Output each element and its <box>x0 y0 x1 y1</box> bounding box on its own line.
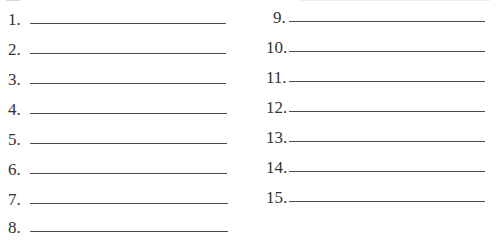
answer-row: 14. <box>250 158 496 182</box>
answer-row: 13. <box>250 128 496 152</box>
answer-row: 15. <box>250 188 496 212</box>
item-number: 7. <box>8 190 21 210</box>
item-number: 14. <box>266 158 287 178</box>
answer-blank-line[interactable] <box>289 111 485 112</box>
answer-blank-line[interactable] <box>30 53 226 54</box>
item-number: 11. <box>266 68 287 88</box>
answer-blank-line[interactable] <box>30 83 226 84</box>
item-number: 8. <box>8 218 21 238</box>
answer-row: 12. <box>250 98 496 122</box>
answer-row: 2. <box>0 38 240 62</box>
clipped-header-fragment <box>0 0 496 3</box>
answer-blank-line[interactable] <box>289 21 485 22</box>
answer-blank-line[interactable] <box>30 203 228 204</box>
answer-blank-line[interactable] <box>289 51 485 52</box>
answer-row: 9. <box>250 8 496 32</box>
item-number: 13. <box>266 128 287 148</box>
answer-blank-line[interactable] <box>289 141 485 142</box>
answer-row: 11. <box>250 68 496 92</box>
item-number: 2. <box>8 40 21 60</box>
clipped-text-fragment <box>6 0 20 1</box>
item-number: 3. <box>8 70 21 90</box>
answer-row: 4. <box>0 98 240 122</box>
answer-row: 5. <box>0 128 240 152</box>
answer-blank-line[interactable] <box>289 201 485 202</box>
answer-blank-line[interactable] <box>30 23 226 24</box>
answer-row: 10. <box>250 38 496 62</box>
answer-blank-line[interactable] <box>289 171 485 172</box>
item-number: 12. <box>266 98 287 118</box>
item-number: 6. <box>8 160 21 180</box>
answer-row: 8. <box>0 216 240 240</box>
answer-blank-line[interactable] <box>289 81 485 82</box>
answer-row: 7. <box>0 188 240 212</box>
item-number: 10. <box>266 38 287 58</box>
item-number: 4. <box>8 100 21 120</box>
answer-blank-line[interactable] <box>30 113 227 114</box>
item-number: 9. <box>273 8 286 28</box>
answer-row: 3. <box>0 68 240 92</box>
clipped-text-fragment <box>300 0 490 1</box>
answer-row: 1. <box>0 8 240 32</box>
item-number: 15. <box>266 188 287 208</box>
answer-blank-line[interactable] <box>30 143 227 144</box>
answer-row: 6. <box>0 158 240 182</box>
answer-blank-line[interactable] <box>30 173 227 174</box>
item-number: 1. <box>8 10 21 30</box>
answer-blank-line[interactable] <box>30 231 228 232</box>
item-number: 5. <box>8 130 21 150</box>
